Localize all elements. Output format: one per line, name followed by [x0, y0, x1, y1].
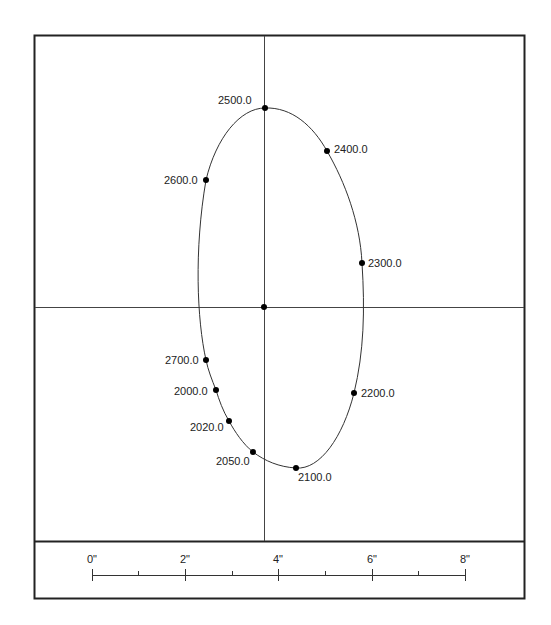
data-point-label: 2020.0	[190, 421, 224, 433]
data-point-label: 2400.0	[334, 143, 368, 155]
data-point-label: 2500.0	[218, 94, 252, 106]
data-point-label: 2600.0	[164, 174, 198, 186]
data-point-marker	[324, 148, 330, 154]
data-point-marker	[226, 418, 232, 424]
data-point-marker	[351, 390, 357, 396]
data-point-label: 2000.0	[174, 385, 208, 397]
data-point-marker	[262, 105, 268, 111]
scale-tick-label: 2"	[180, 553, 190, 565]
outer-frame	[35, 36, 525, 599]
data-point-marker	[203, 357, 209, 363]
data-point-marker	[359, 260, 365, 266]
ellipse-curve	[198, 108, 363, 468]
data-points: 2500.02400.02600.02300.02700.02000.02200…	[164, 94, 402, 483]
scale-tick-label: 0"	[87, 553, 97, 565]
data-point-marker	[250, 449, 256, 455]
data-point-label: 2200.0	[361, 387, 395, 399]
data-point-label: 2700.0	[165, 354, 199, 366]
diagram-canvas: 2500.02400.02600.02300.02700.02000.02200…	[0, 0, 551, 625]
scale-bar: 0"2"4"6"8"	[87, 553, 470, 581]
data-point-marker	[203, 177, 209, 183]
scale-tick-label: 4"	[273, 553, 283, 565]
scale-tick-label: 8"	[460, 553, 470, 565]
data-point-label: 2100.0	[298, 471, 332, 483]
center-point	[261, 304, 267, 310]
scale-tick-label: 6"	[367, 553, 377, 565]
data-point-marker	[213, 387, 219, 393]
data-point-label: 2050.0	[216, 455, 250, 467]
data-point-label: 2300.0	[368, 257, 402, 269]
